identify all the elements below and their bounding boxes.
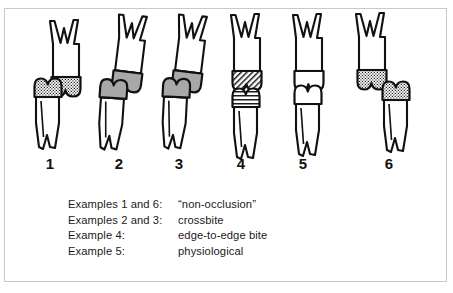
specimen-5-upper-tooth [293,14,324,91]
specimen-number-4: 4 [229,155,253,172]
specimen-5 [293,14,324,156]
caption-value: crossbite [178,214,224,226]
caption-legend: Examples 1 and 6: “non-occlusion” Exampl… [68,198,368,260]
specimen-number-2: 2 [107,155,131,172]
caption-row: Example 4: edge-to-edge bite [68,229,368,245]
specimen-3-lower-tooth [160,78,191,150]
specimen-6-upper-tooth [356,13,387,90]
figure-root: 1 2 3 4 5 6 Examples 1 and 6: “non-occlu… [0,0,453,293]
specimen-number-3: 3 [167,155,191,172]
caption-label: Example 4: [68,229,178,241]
caption-value: edge-to-edge bite [178,229,267,241]
specimen-4 [231,14,262,159]
specimen-3 [160,13,210,149]
specimen-number-1: 1 [38,155,62,172]
caption-row: Examples 1 and 6: “non-occlusion” [68,198,368,214]
specimen-number-5: 5 [291,155,315,172]
specimen-1-lower-tooth [35,79,62,150]
specimen-2-lower-tooth [96,79,128,151]
specimen-1 [35,20,81,149]
specimen-4-lower-tooth [233,89,260,160]
caption-label: Examples 2 and 3: [68,214,178,226]
caption-label: Examples 1 and 6: [68,198,178,210]
specimen-5-lower-tooth [295,86,322,157]
specimen-2 [96,13,149,150]
caption-value: physiological [178,245,243,257]
caption-row: Example 5: physiological [68,245,368,261]
caption-label: Example 5: [68,245,178,257]
specimen-number-6: 6 [377,155,401,172]
specimen-6-lower-tooth [383,82,410,153]
specimen-4-upper-tooth [231,14,262,91]
specimen-6 [356,13,410,152]
caption-value: “non-occlusion” [178,198,256,210]
caption-row: Examples 2 and 3: crossbite [68,214,368,230]
tooth-diagram-panel: 1 2 3 4 5 6 [0,0,453,185]
